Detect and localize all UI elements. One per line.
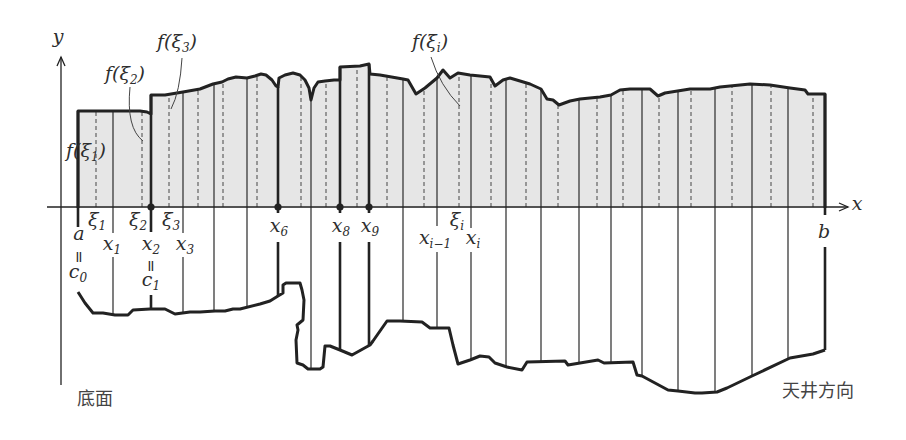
shaded-area [78,64,825,208]
label-xi-3: ξ3 [162,208,180,233]
riemann-sum-figure: y x f(ξ1) f(ξ2) f(ξ3) f(ξi) ξ1 ξ2 ξ3 ξi … [0,0,906,440]
label-x-i: xi [466,226,481,251]
label-f-xi-3: f(ξ3) [155,30,197,55]
label-x-8: x8 [332,214,351,239]
label-x-i-minus-1: xi−1 [419,226,451,251]
partition-point-dot [365,203,372,210]
shaded-region-layer [78,64,825,208]
label-xi-1: ξ1 [88,208,106,233]
label-x-9: x9 [361,214,380,239]
partition-point-dot [147,203,154,210]
label-xi-2: ξ2 [129,208,147,233]
figure-canvas: y x f(ξ1) f(ξ2) f(ξ3) f(ξi) ξ1 ξ2 ξ3 ξi … [0,0,906,440]
label-f-xi-1: f(ξ1) [64,139,106,164]
label-xi-i: ξi [450,208,464,233]
label-a: a [73,222,84,244]
ceiling-profile-curve-bottom [78,283,825,393]
caption-ceiling-direction: 天井方向 [782,380,854,401]
label-c-0: c0 [69,260,88,285]
label-x-1: x1 [103,232,121,257]
partition-point-dot [336,203,343,210]
label-f-xi-i: f(ξi) [410,30,448,55]
x-axis-label: x [852,192,863,214]
partition-point-dot [274,203,281,210]
caption-bottom-surface: 底面 [77,388,113,409]
label-f-xi-2: f(ξ2) [103,62,145,87]
y-axis-label: y [52,25,64,47]
label-b: b [818,220,830,242]
label-x-6: x6 [270,214,289,239]
label-x-3: x3 [176,232,195,257]
label-x-2: x2 [142,232,160,257]
